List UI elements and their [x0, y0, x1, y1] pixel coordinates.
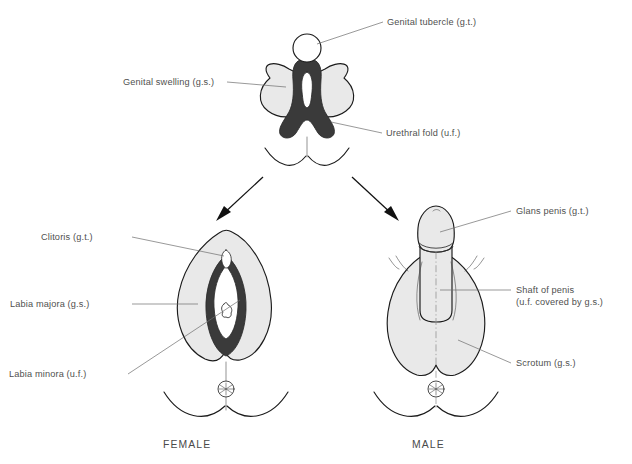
- label-urethral-fold: Urethral fold (u.f.): [386, 128, 460, 138]
- label-genital-tubercle: Genital tubercle (g.t.): [387, 17, 476, 27]
- scrotum-fold-left-2: [396, 256, 408, 271]
- arrow-to-male: [352, 177, 399, 221]
- female-figure: FEMALE: [163, 230, 288, 450]
- anatomy-diagram: Genital tubercle (g.t.) Genital swelling…: [0, 0, 632, 464]
- leader-urethral-fold: [331, 122, 382, 133]
- label-labia-majora: Labia majora (g.s.): [10, 299, 89, 309]
- scrotum-fold-left: [389, 258, 399, 269]
- indifferent-stage-figure: [260, 34, 353, 165]
- branch-arrows: [216, 177, 399, 221]
- label-clitoris: Clitoris (g.t.): [41, 232, 93, 242]
- leader-genital-tubercle: [317, 22, 383, 44]
- label-shaft-of-penis-line2: (u.f. covered by g.s.): [516, 297, 603, 307]
- label-labia-minora: Labia minora (u.f.): [9, 369, 86, 379]
- diagram-root: Genital tubercle (g.t.) Genital swelling…: [0, 0, 632, 464]
- scrotum-fold-right-2: [465, 256, 477, 271]
- label-shaft-of-penis-line1: Shaft of penis: [516, 285, 575, 295]
- label-genital-swelling: Genital swelling (g.s.): [123, 77, 214, 87]
- female-perineum-right: [227, 392, 288, 416]
- anus-female-rays: [219, 383, 233, 395]
- perineum-curve-right-top: [308, 148, 349, 165]
- male-perineum-left: [374, 392, 435, 416]
- perineum-curve-left-top: [265, 148, 306, 165]
- anus-male-rays: [429, 383, 443, 395]
- female-perineum-left: [164, 392, 225, 416]
- caption-male: MALE: [412, 439, 445, 450]
- genital-tubercle-shape: [293, 34, 321, 62]
- male-perineum-right: [437, 392, 498, 416]
- label-scrotum: Scrotum (g.s.): [516, 358, 576, 368]
- scrotum-fold-right: [474, 258, 484, 269]
- caption-female: FEMALE: [163, 439, 211, 450]
- male-figure: MALE: [374, 206, 498, 450]
- urethral-groove: [302, 72, 313, 108]
- arrow-to-female: [216, 177, 263, 221]
- label-glans-penis: Glans penis (g.t.): [516, 206, 589, 216]
